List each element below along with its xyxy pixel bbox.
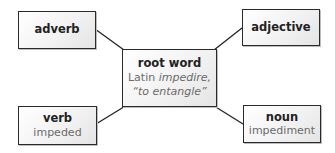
noun-box: noun impediment [243, 105, 321, 143]
connector-adjective-root [214, 28, 242, 50]
adverb-box: adverb [18, 11, 96, 49]
connector-adverb-root [95, 29, 124, 50]
root-word-origin: Latin impedire, [128, 71, 211, 85]
connector-verb-root [96, 105, 127, 124]
verb-box: verb impeded [18, 106, 97, 145]
root-word-box: root word Latin impedire, “to entangle” [122, 49, 217, 107]
noun-title: noun [266, 111, 298, 125]
adverb-title: adverb [34, 23, 79, 37]
verb-title: verb [43, 112, 72, 126]
verb-text: impeded [33, 126, 81, 139]
noun-text: impediment [249, 124, 315, 137]
adjective-box: adjective [242, 9, 320, 46]
connector-noun-root [211, 104, 243, 124]
latin-word: impedire, [159, 71, 211, 84]
root-word-title: root word [138, 57, 201, 71]
root-word-meaning: “to entangle” [132, 85, 207, 99]
adjective-title: adjective [251, 21, 310, 35]
